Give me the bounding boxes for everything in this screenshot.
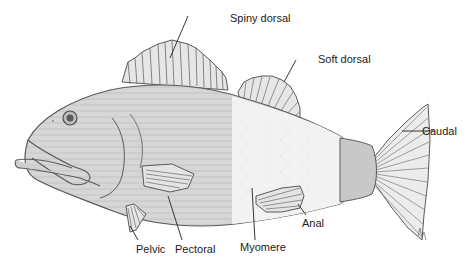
label-soft-dorsal: Soft dorsal xyxy=(318,54,371,65)
label-myomere: Myomere xyxy=(240,242,286,253)
label-pectoral: Pectoral xyxy=(175,244,215,255)
fish-illustration xyxy=(0,0,470,267)
label-caudal: Caudal xyxy=(422,126,457,137)
fish-diagram: Spiny dorsal Soft dorsal Caudal Anal Myo… xyxy=(0,0,470,267)
caudal-fin xyxy=(368,104,430,240)
label-pelvic: Pelvic xyxy=(136,244,165,255)
fish-body xyxy=(25,85,376,226)
label-anal: Anal xyxy=(302,218,324,229)
spiny-dorsal-fin xyxy=(122,40,228,90)
label-spiny-dorsal: Spiny dorsal xyxy=(230,13,291,24)
